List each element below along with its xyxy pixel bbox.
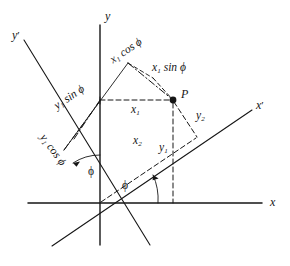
x1-sin-phi-label: x1 sin ϕ bbox=[152, 62, 186, 75]
y1-subscript: 1 bbox=[164, 147, 168, 155]
x2-label: x2 bbox=[133, 135, 142, 148]
parallelogram-top-corner bbox=[128, 63, 153, 78]
y-prime-mark: ′ bbox=[17, 29, 20, 41]
x1-subscript: 1 bbox=[136, 109, 140, 117]
point-p-label: P bbox=[181, 88, 188, 100]
coordinate-rotation-figure: y x y′ x′ P ϕ ϕ x1 x2 y1 y2 x1 sin ϕ bbox=[0, 0, 290, 266]
x2-dashed bbox=[101, 138, 196, 202]
y-prime-axis-label: y′ bbox=[12, 29, 20, 41]
y1-sin-phi-segment bbox=[66, 100, 100, 146]
x-prime-axis-label: x′ bbox=[256, 99, 264, 111]
x1-sin-trig: sin ϕ bbox=[161, 61, 186, 73]
y2-subscript: 2 bbox=[201, 115, 205, 123]
y1-sin-phi-guide-dashdot bbox=[74, 139, 120, 175]
phi-label-lower: ϕ bbox=[122, 180, 128, 192]
point-p-marker bbox=[170, 97, 177, 104]
x-axis-label: x bbox=[270, 196, 275, 208]
x1-label: x1 bbox=[131, 104, 140, 117]
x2-subscript: 2 bbox=[138, 140, 142, 148]
x1-sin-phi-line bbox=[153, 78, 173, 100]
phi-label-upper: ϕ bbox=[88, 166, 94, 178]
y1-label: y1 bbox=[159, 142, 168, 155]
x-prime-mark: ′ bbox=[261, 99, 264, 111]
x-prime-axis-line bbox=[52, 110, 252, 246]
y2-dashed bbox=[174, 102, 197, 137]
parallelogram-left-edge bbox=[64, 63, 128, 150]
y-axis-label: y bbox=[105, 10, 110, 22]
y2-label: y2 bbox=[196, 110, 205, 123]
